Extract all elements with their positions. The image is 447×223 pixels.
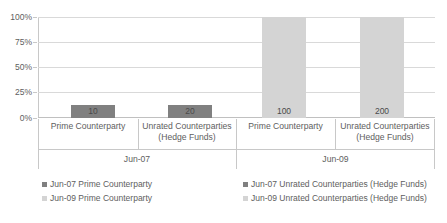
legend-item-jun07-unrated[interactable]: Jun-07 Unrated Counterparties (Hedge Fun… — [243, 180, 427, 189]
bar-value-label: 10 — [71, 107, 115, 116]
bar-value-label: 200 — [360, 107, 404, 116]
bar-jun07-prime-counterparty: 10 — [71, 105, 115, 118]
bar-jun07-unrated-counterparties: 20 — [168, 105, 212, 118]
y-tick-mark-100 — [33, 17, 37, 18]
x-category-jun07-prime: Prime Counterparty — [38, 119, 138, 149]
plot-area: 10 20 100 200 — [38, 17, 435, 118]
y-tick-mark-50 — [33, 67, 37, 68]
legend-swatch-icon — [243, 182, 248, 187]
y-tick-mark-75 — [33, 42, 37, 43]
x-group-jun07: Jun-07 — [38, 149, 236, 169]
legend-label: Jun-09 Prime Counterparty — [50, 194, 152, 203]
x-category-jun09-prime: Prime Counterparty — [236, 119, 335, 149]
bar-value-label: 20 — [168, 107, 212, 116]
x-category-label: Unrated Counterparties (Hedge Funds) — [340, 121, 429, 143]
x-category-jun07-unrated: Unrated Counterparties (Hedge Funds) — [138, 119, 236, 149]
bar-value-label: 100 — [262, 107, 306, 116]
legend-swatch-icon — [243, 196, 248, 201]
y-tick-label-0: 0% — [0, 114, 32, 123]
legend-item-jun07-prime[interactable]: Jun-07 Prime Counterparty — [42, 180, 152, 189]
y-tick-label-25: 25% — [0, 88, 32, 97]
y-tick-label-50: 50% — [0, 63, 32, 72]
x-group-jun09: Jun-09 — [236, 149, 435, 169]
legend: Jun-07 Prime Counterparty Jun-09 Prime C… — [0, 177, 447, 207]
x-category-jun09-unrated: Unrated Counterparties (Hedge Funds) — [335, 119, 435, 149]
legend-swatch-icon — [42, 196, 47, 201]
y-tick-label-100: 100% — [0, 13, 32, 22]
legend-label: Jun-09 Unrated Counterparties (Hedge Fun… — [251, 194, 427, 203]
legend-label: Jun-07 Prime Counterparty — [50, 180, 152, 189]
x-category-label: Prime Counterparty — [51, 121, 126, 132]
legend-swatch-icon — [42, 182, 47, 187]
bar-jun09-prime-counterparty: 100 — [262, 17, 306, 118]
x-group-label: Jun-07 — [124, 154, 150, 164]
category-separator — [138, 119, 139, 149]
x-group-label: Jun-09 — [322, 154, 348, 164]
x-category-label: Prime Counterparty — [248, 121, 323, 132]
y-tick-label-75: 75% — [0, 38, 32, 47]
category-separator — [335, 119, 336, 149]
x-axis-group-band: Jun-07 Jun-09 — [38, 149, 435, 169]
x-axis-category-band: Prime Counterparty Unrated Counterpartie… — [38, 119, 435, 149]
x-category-label: Unrated Counterparties (Hedge Funds) — [142, 121, 231, 143]
legend-item-jun09-unrated[interactable]: Jun-09 Unrated Counterparties (Hedge Fun… — [243, 194, 427, 203]
bar-chart: 100% 75% 50% 25% 0% 10 20 100 200 — [0, 0, 447, 223]
legend-item-jun09-prime[interactable]: Jun-09 Prime Counterparty — [42, 194, 152, 203]
y-tick-mark-0 — [33, 118, 37, 119]
legend-label: Jun-07 Unrated Counterparties (Hedge Fun… — [251, 180, 427, 189]
y-tick-mark-25 — [33, 92, 37, 93]
bar-jun09-unrated-counterparties: 200 — [360, 17, 404, 118]
